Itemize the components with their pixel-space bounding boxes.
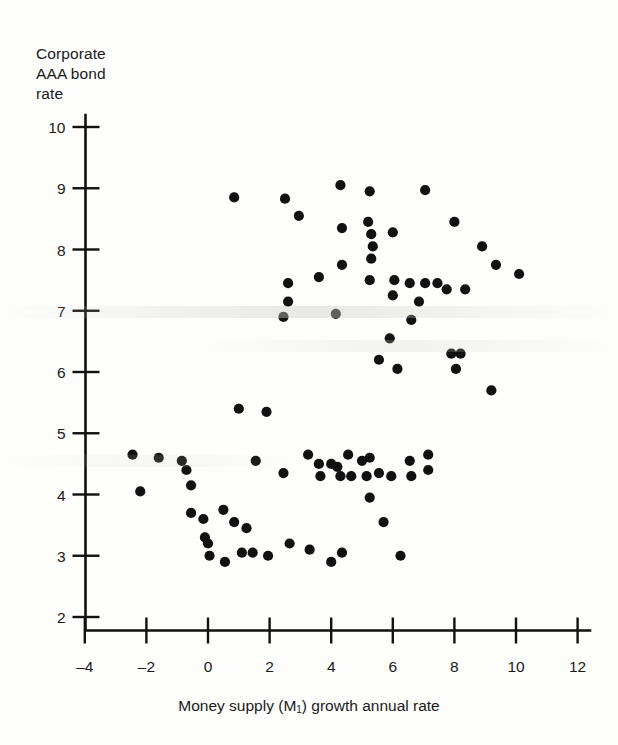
y-tick-label: 10 [48,119,66,136]
data-point [337,260,347,270]
data-point [332,462,342,472]
data-point [405,278,415,288]
data-point [237,548,247,558]
x-tick-label: 0 [204,658,213,675]
data-point [314,459,324,469]
data-point [251,456,261,466]
y-tick-label: 8 [57,242,66,259]
data-point [395,551,405,561]
data-point [442,284,452,294]
data-point [392,364,402,374]
data-point [337,223,347,233]
y-tick-label: 4 [57,487,66,504]
data-point [294,211,304,221]
data-point [326,557,336,567]
data-point [366,229,376,239]
y-tick-label: 2 [57,609,66,626]
data-point [432,278,442,288]
x-tick-label: 4 [327,658,336,675]
data-point [378,517,388,527]
data-point [420,278,430,288]
data-point [186,508,196,518]
data-point [363,217,373,227]
data-point [385,333,395,343]
data-point [491,260,501,270]
data-point [343,450,353,460]
data-point [406,471,416,481]
x-tick-label: 6 [388,658,397,675]
data-point [365,275,375,285]
x-ticks-group: –4–2024681012 [76,618,586,676]
data-point [263,551,273,561]
x-axis-label-text: Money supply (M1) growth annual rate [178,697,439,714]
data-point [414,296,424,306]
data-point [186,480,196,490]
data-point [477,241,487,251]
data-point [486,385,496,395]
data-point [154,453,164,463]
x-tick-label: 2 [265,658,274,675]
y-tick-label: 6 [57,364,66,381]
x-tick-label: –2 [138,658,155,675]
data-point [305,545,315,555]
data-point [181,465,191,475]
data-point [389,275,399,285]
data-point [449,217,459,227]
data-point [314,272,324,282]
plot-canvas: –4–2024681012 2345678910 [0,0,618,745]
data-point [388,290,398,300]
x-tick-label: 10 [507,658,525,675]
data-point [406,315,416,325]
y-tick-label: 9 [57,180,66,197]
data-point [229,517,239,527]
data-point [335,471,345,481]
data-point [366,254,376,264]
data-point [368,241,378,251]
data-point [315,471,325,481]
data-point [203,538,213,548]
data-point [248,548,258,558]
data-point [337,548,347,558]
data-point [280,194,290,204]
x-tick-label: 8 [450,658,459,675]
data-point [283,296,293,306]
data-point [365,453,375,463]
data-point [374,355,384,365]
data-point [386,471,396,481]
data-point [455,349,465,359]
data-point [365,186,375,196]
y-ticks-group: 2345678910 [48,119,99,626]
data-point [335,180,345,190]
scatter-plot-figure: Corporate AAA bond rate –4–2024681012 23… [0,0,618,745]
data-point [365,492,375,502]
x-tick-label: 12 [569,658,586,675]
data-points-group [127,180,524,567]
data-point [278,468,288,478]
data-point [229,192,239,202]
data-point [514,269,524,279]
data-point [446,349,456,359]
data-point [127,450,137,460]
y-tick-label: 3 [57,548,66,565]
y-tick-label: 5 [57,425,66,442]
data-point [303,450,313,460]
data-point [198,514,208,524]
y-tick-label: 7 [57,303,66,320]
data-point [283,278,293,288]
data-point [220,557,230,567]
x-axis-label: Money supply (M1) growth annual rate [0,697,618,715]
data-point [278,312,288,322]
data-point [362,471,372,481]
data-point [346,471,356,481]
data-point [423,450,433,460]
data-point [241,523,251,533]
data-point [285,538,295,548]
data-point [420,185,430,195]
data-point [234,404,244,414]
data-point [218,505,228,515]
data-point [423,465,433,475]
data-point [177,456,187,466]
x-tick-label: –4 [76,658,94,675]
data-point [261,407,271,417]
data-point [451,364,461,374]
